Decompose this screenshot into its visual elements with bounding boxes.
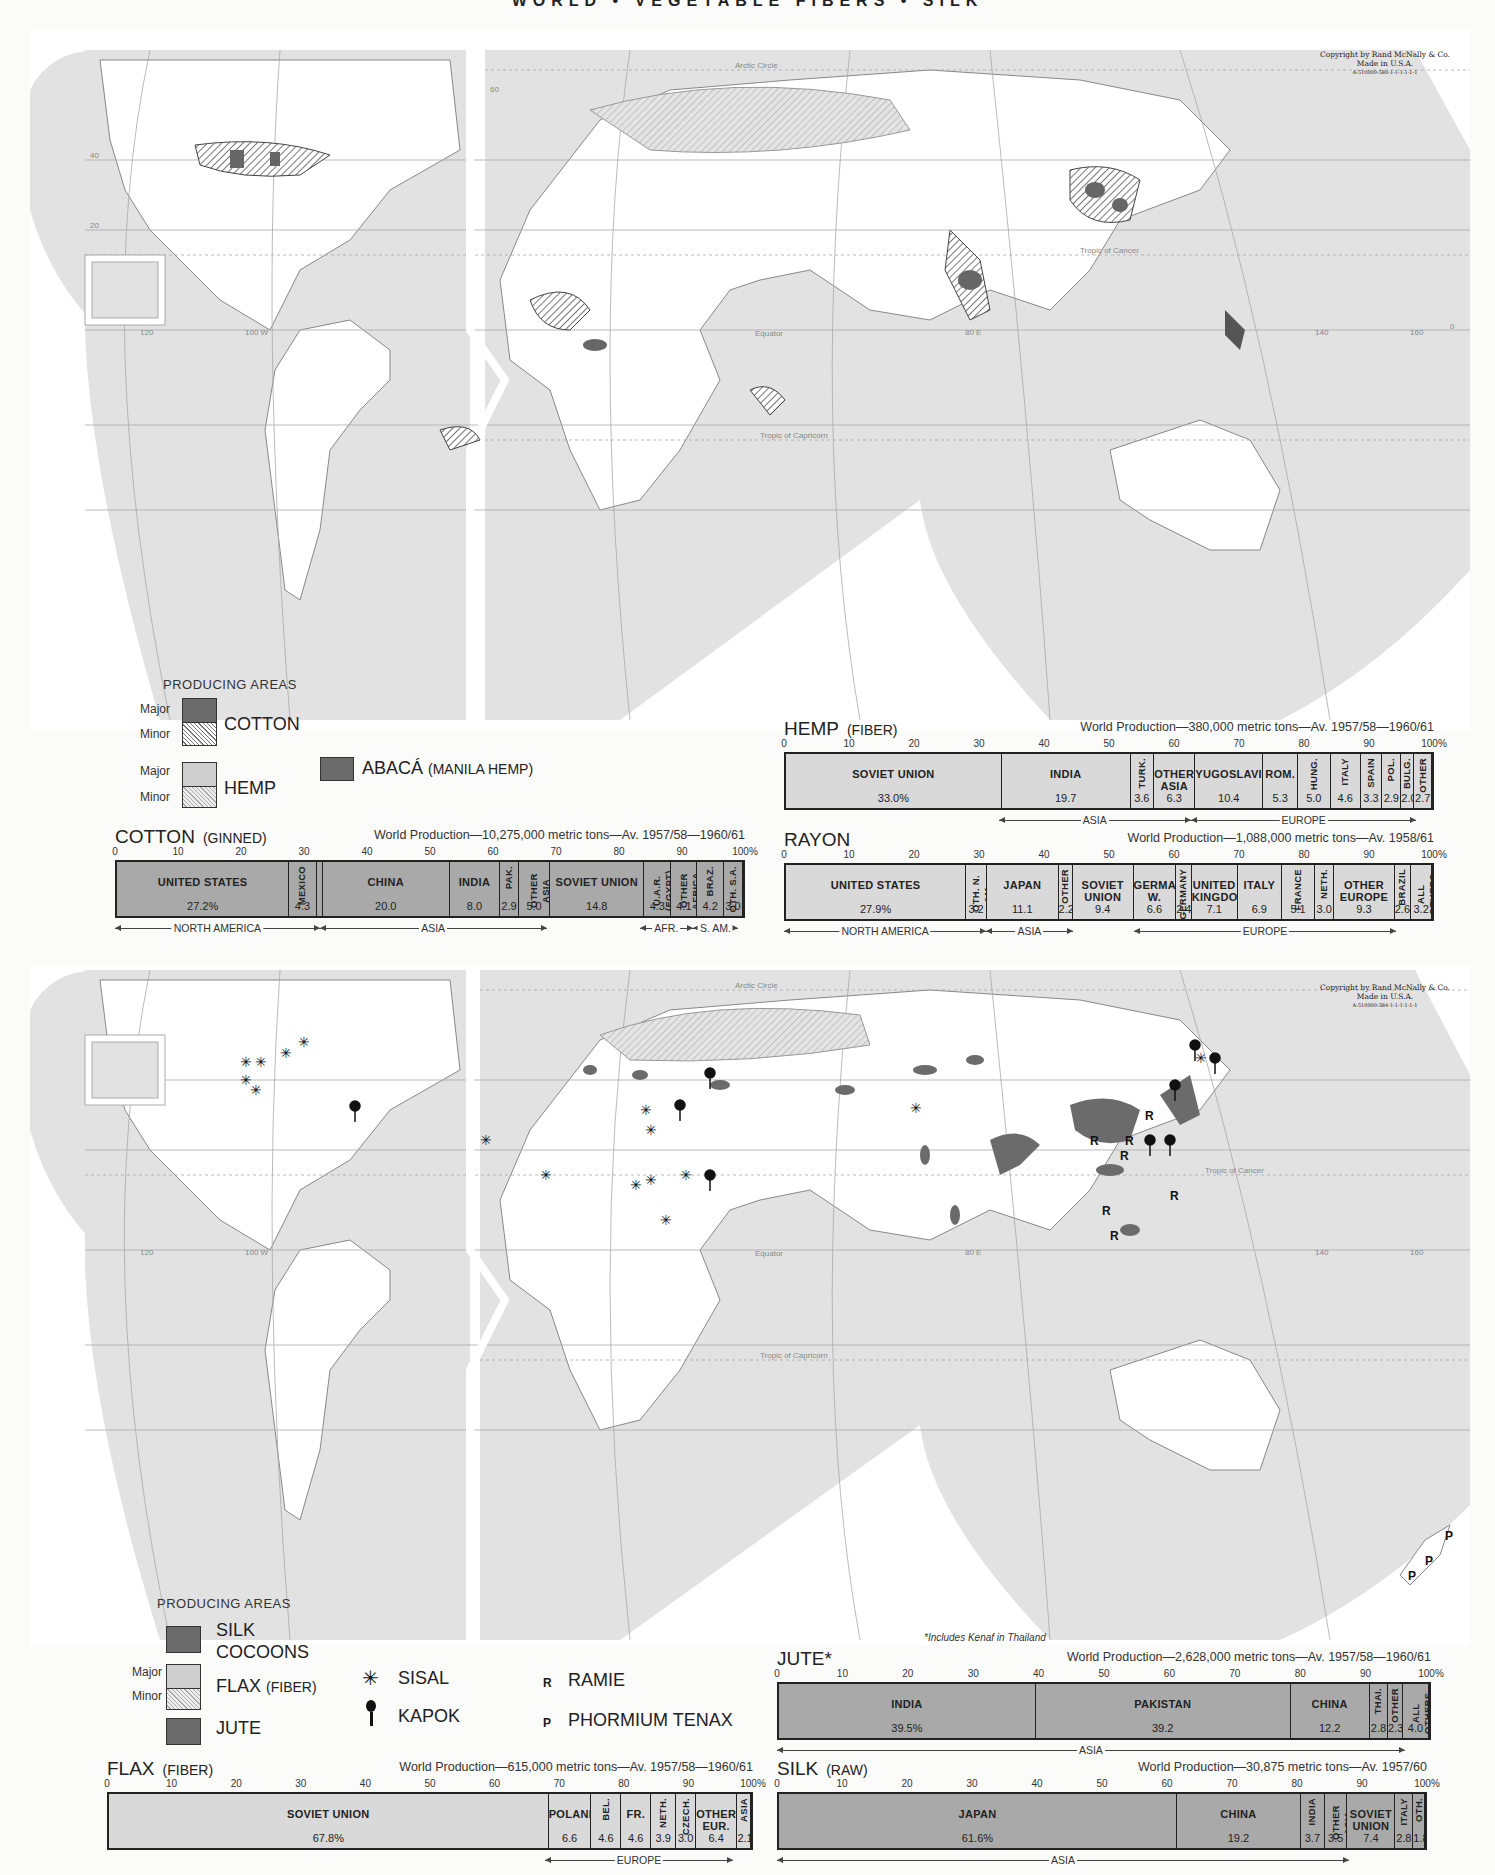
bar-segment: OTHER2.2 xyxy=(1059,865,1073,919)
segment-value: 3.3 xyxy=(1361,792,1382,804)
cotton-chart: COTTON(GINNED)World Production—10,275,00… xyxy=(115,826,745,938)
chart-subtitle: (FIBER) xyxy=(163,1762,214,1778)
axis-tick-label: 0 xyxy=(112,846,118,857)
segment-label: PAK. xyxy=(503,866,515,889)
lon-160-label-bottom: 160 xyxy=(1410,1248,1424,1257)
legend-minor-cotton: Minor xyxy=(140,727,170,741)
bar-segment: SOVIET UNION7.4 xyxy=(1347,1794,1395,1848)
bar-segment: SOVIET UNION9.4 xyxy=(1073,865,1134,919)
axis-tick-label: 10 xyxy=(843,849,854,860)
legend-jute-label: JUTE xyxy=(216,1718,261,1739)
chart-subtitle: (GINNED) xyxy=(203,830,267,846)
lon-80e-label-bottom: 80 E xyxy=(965,1248,981,1257)
segment-value: 33.0% xyxy=(786,792,1001,804)
axis-tick-label: 40 xyxy=(1038,849,1049,860)
segment-label: BEL. xyxy=(600,1798,612,1821)
hemp-chart: HEMP(FIBER)World Production—380,000 metr… xyxy=(784,718,1434,830)
bar-segment: INDIA8.0 xyxy=(450,862,501,916)
axis-tick-label: 50 xyxy=(1098,1668,1109,1679)
arctic-circle-label-bottom: Arctic Circle xyxy=(735,981,778,990)
bar-segment: U.A.R. (EGYPT)4.3 xyxy=(644,862,671,916)
sisal-marker: ✳ xyxy=(540,1167,552,1183)
phormium-marker: P xyxy=(1445,1529,1453,1543)
region-bracket: ASIA xyxy=(320,922,547,934)
segment-value: 3.2 xyxy=(966,903,986,915)
segment-value: 4.3 xyxy=(644,900,670,912)
legend-heading-top: PRODUCING AREAS xyxy=(163,677,297,692)
arctic-circle-label: Arctic Circle xyxy=(735,61,778,70)
axis-tick-label: 70 xyxy=(1226,1778,1237,1789)
bar-segment: GERMANY W.6.6 xyxy=(1134,865,1177,919)
axis-tick-label: 90 xyxy=(1356,1778,1367,1789)
legend-silk-cocoons-label: COCOONS xyxy=(216,1642,309,1663)
segment-label: OTHER ASIA xyxy=(1154,768,1194,792)
segment-value: 4.2 xyxy=(697,900,723,912)
sisal-marker: ✳ xyxy=(660,1212,672,1228)
region-label: ASIA xyxy=(419,922,447,934)
bar-segment: OTHER2.7 xyxy=(1414,754,1432,808)
segment-value: 7.4 xyxy=(1347,1832,1394,1844)
segment-label: SOVIET UNION xyxy=(109,1808,548,1820)
bar-segment: INDIA3.7 xyxy=(1301,1794,1325,1848)
segment-value: 6.6 xyxy=(549,1832,591,1844)
segment-label: YUGOSLAVIA xyxy=(1195,768,1262,780)
segment-label: TURK. xyxy=(1136,758,1148,789)
region-label: ASIA xyxy=(1081,814,1109,826)
chart-title-text: RAYON xyxy=(784,829,850,850)
percent-axis: 0102030405060708090100% xyxy=(784,849,1434,863)
bar-segment: SOVIET UNION14.8 xyxy=(550,862,644,916)
segment-value: 10.4 xyxy=(1195,792,1262,804)
lon-160-label: 160 xyxy=(1410,328,1424,337)
segment-label: PAKISTAN xyxy=(1036,1698,1290,1710)
bar-segment: INDIA39.5% xyxy=(779,1684,1036,1738)
arrow-left-icon xyxy=(640,925,646,931)
chart-title: JUTE* xyxy=(777,1648,840,1670)
region-label: ASIA xyxy=(1015,925,1043,937)
sisal-marker: ✳ xyxy=(645,1122,657,1138)
segment-value: 19.7 xyxy=(1002,792,1130,804)
segment-label: INDIA xyxy=(1002,768,1130,780)
legend-abaca-label: ABACÁ (MANILA HEMP) xyxy=(362,758,533,779)
chart-title-text: FLAX xyxy=(107,1758,155,1779)
axis-tick-label: 70 xyxy=(1229,1668,1240,1679)
flax-chart: FLAX(FIBER)World Production—615,000 metr… xyxy=(107,1758,753,1870)
world-map-top: Arctic Circle Tropic of Cancer Equator T… xyxy=(30,30,1470,730)
chart-title: FLAX(FIBER) xyxy=(107,1758,213,1780)
region-bracket: ASIA xyxy=(986,925,1072,937)
legend-kapok-label: KAPOK xyxy=(398,1706,460,1727)
bar-segment: SOVIET UNION67.8% xyxy=(109,1794,549,1848)
bar-segment: NETH.3.9 xyxy=(651,1794,676,1848)
bar-segment: BULG.2.0 xyxy=(1401,754,1414,808)
axis-tick-label: 80 xyxy=(618,1778,629,1789)
bar-segment: UNITED STATES27.2% xyxy=(117,862,289,916)
segment-value: 5.0 xyxy=(519,900,550,912)
lon-120-label: 120 xyxy=(140,328,154,337)
axis-tick-label: 30 xyxy=(968,1668,979,1679)
legend-ramie-label: RAMIE xyxy=(568,1670,625,1691)
axis-tick-label: 40 xyxy=(360,1778,371,1789)
segment-label: ITALY xyxy=(1339,758,1351,785)
region-label: NORTH AMERICA xyxy=(172,922,263,934)
hemp-minor-swatch xyxy=(182,786,217,808)
bar-segment: JAPAN61.6% xyxy=(779,1794,1177,1848)
segment-value: 3.5 xyxy=(1325,1832,1347,1844)
bar-segment: CZECH.3.0 xyxy=(676,1794,695,1848)
arrow-left-icon xyxy=(777,1857,783,1863)
axis-tick-label: 10 xyxy=(836,1778,847,1789)
arrow-left-icon xyxy=(1191,817,1197,823)
ramie-marker: R xyxy=(1145,1109,1154,1123)
segment-label: INDIA xyxy=(779,1698,1035,1710)
segment-value: 61.6% xyxy=(779,1832,1176,1844)
bar-segment: CHINA20.0 xyxy=(323,862,450,916)
arrow-left-icon xyxy=(320,925,326,931)
sisal-marker: ✳ xyxy=(480,1132,492,1148)
axis-tick-label: 50 xyxy=(424,846,435,857)
axis-tick-label: 20 xyxy=(901,1778,912,1789)
lat-20-label: 20 xyxy=(90,221,99,230)
bar-segment: UNITED KINGDOM7.1 xyxy=(1192,865,1238,919)
segment-value: 2.1 xyxy=(737,1832,750,1844)
segment-label: JAPAN xyxy=(987,879,1058,891)
axis-tick-label: 80 xyxy=(1298,738,1309,749)
axis-tick-label: 100% xyxy=(740,1778,766,1789)
phormium-marker: P xyxy=(1408,1569,1416,1583)
